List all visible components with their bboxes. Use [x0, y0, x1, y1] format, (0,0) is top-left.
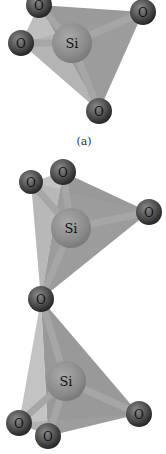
oxygen-atom: O — [35, 423, 61, 449]
tetrahedron-upper: Si — [31, 172, 149, 299]
oxygen-atom: O — [130, 0, 156, 25]
atom-label-o: O — [16, 37, 26, 51]
atom-label-o: O — [144, 206, 154, 220]
silicon-atom: Si — [52, 23, 92, 63]
oxygen-atom: O — [126, 401, 152, 427]
atom-label-o: O — [134, 408, 144, 422]
atom-label-o: O — [34, 0, 44, 13]
atom-label-si: Si — [64, 221, 77, 236]
bridging-oxygen-atom: O — [28, 286, 54, 312]
atom-label-o: O — [14, 417, 24, 431]
silicon-atom: Si — [46, 361, 86, 401]
oxygen-atom: O — [6, 410, 32, 436]
atom-label-o: O — [94, 105, 104, 119]
silicon-atom: Si — [51, 208, 91, 248]
atom-label-o: O — [36, 293, 46, 307]
atom-label-si: Si — [65, 36, 78, 51]
tetrahedron-lower: Si — [19, 299, 139, 436]
panel-caption-a: (a) — [76, 135, 91, 148]
atom-label-si: Si — [59, 374, 72, 389]
silicate-tetrahedra-diagram: Si O O O O (a) — [0, 0, 166, 454]
oxygen-atom: O — [86, 98, 112, 124]
atom-label-o: O — [43, 430, 53, 444]
atom-label-o: O — [138, 6, 148, 20]
oxygen-atom: O — [19, 170, 43, 194]
atom-label-o: O — [58, 166, 68, 180]
oxygen-atom: O — [50, 159, 76, 185]
oxygen-atom: O — [136, 199, 162, 225]
oxygen-atom: O — [8, 30, 34, 56]
atom-label-o: O — [26, 176, 36, 190]
tetrahedron-a: Si O O O O — [8, 0, 156, 124]
